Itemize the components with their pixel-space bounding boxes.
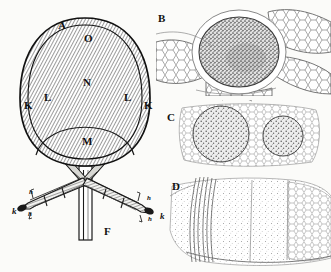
label-f: F xyxy=(104,226,111,237)
label-l-right: L xyxy=(124,92,131,103)
label-k-lower-right: k xyxy=(160,212,165,221)
right-arm xyxy=(83,178,155,222)
panel-d-artwork xyxy=(170,177,331,265)
label-k-left: K xyxy=(24,100,33,111)
plate-artwork xyxy=(0,0,331,272)
left-arm xyxy=(16,178,88,219)
label-h-upper-left: h xyxy=(29,189,33,196)
panel-c-artwork xyxy=(179,97,319,166)
label-n: N xyxy=(83,77,91,88)
panel-b-artwork xyxy=(156,10,331,96)
label-k-right: K xyxy=(144,100,153,111)
label-h-lower-left: h xyxy=(28,211,32,218)
panel-letter-a: A xyxy=(58,20,66,31)
label-h-upper-right: h xyxy=(147,195,151,202)
panel-letter-b: B xyxy=(158,13,166,24)
label-l-left: L xyxy=(44,92,51,103)
panel-letter-d: D xyxy=(172,181,180,192)
panel-letter-c: C xyxy=(167,112,175,123)
label-o: O xyxy=(84,33,93,44)
panel-a-artwork xyxy=(14,12,160,240)
label-k-lower-left: k xyxy=(12,207,17,216)
figure-plate: A O N L L K K M F k k h h h h B C D xyxy=(0,0,331,272)
label-h-lower-right: h xyxy=(148,216,152,223)
label-m: M xyxy=(82,136,92,147)
